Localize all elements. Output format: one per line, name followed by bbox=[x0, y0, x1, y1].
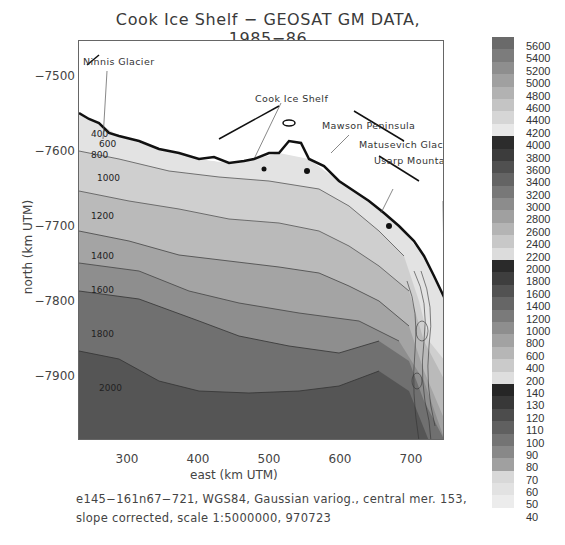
contour-label: 2000 bbox=[99, 383, 122, 393]
contour-label: 1800 bbox=[91, 329, 114, 339]
colorbar-label: 1000 bbox=[526, 325, 550, 337]
colorbar-label: 4200 bbox=[526, 127, 550, 139]
colorbar-label: 4800 bbox=[526, 90, 550, 102]
y-tick-label: −7900 bbox=[34, 369, 75, 383]
colorbar-label: 100 bbox=[526, 437, 550, 449]
y-tick-label: −7800 bbox=[34, 294, 75, 308]
colorbar-label: 120 bbox=[526, 412, 550, 424]
contour-label: 1200 bbox=[91, 211, 114, 221]
x-tick-label: 400 bbox=[178, 452, 218, 466]
colorbar-label: 140 bbox=[526, 387, 550, 399]
contour-label: 1000 bbox=[97, 173, 120, 183]
contour-label: 400 bbox=[91, 129, 108, 139]
colorbar-label: 3600 bbox=[526, 164, 550, 176]
x-tick-label: 600 bbox=[320, 452, 360, 466]
y-tick-label: −7600 bbox=[34, 144, 75, 158]
colorbar-label: 600 bbox=[526, 350, 550, 362]
x-tick-label: 500 bbox=[249, 452, 289, 466]
y-axis-label: north (km UTM) bbox=[21, 187, 35, 307]
colorbar-label: 4000 bbox=[526, 139, 550, 151]
caption-line-1: e145−161n67−721, WGS84, Gaussian variog.… bbox=[76, 490, 467, 509]
annotation-ninnis-glacier: Ninnis Glacier bbox=[83, 56, 154, 67]
y-tick-label: −7500 bbox=[34, 69, 75, 83]
colorbar bbox=[492, 37, 514, 508]
colorbar-label: 5200 bbox=[526, 65, 550, 77]
colorbar-label: 5600 bbox=[526, 40, 550, 52]
colorbar-label: 70 bbox=[526, 474, 550, 486]
map-plot-area[interactable]: 400 600 800 1000 1200 1400 1600 1800 200… bbox=[78, 40, 444, 440]
x-tick-label: 700 bbox=[391, 452, 431, 466]
colorbar-label: 2000 bbox=[526, 263, 550, 275]
colorbar-label: 5400 bbox=[526, 52, 550, 64]
colorbar-label: 2400 bbox=[526, 238, 550, 250]
colorbar-label: 1200 bbox=[526, 313, 550, 325]
colorbar-label: 90 bbox=[526, 449, 550, 461]
annotation-matusevich-glacier: Matusevich Glacier bbox=[359, 139, 444, 150]
colorbar-label: 400 bbox=[526, 362, 550, 374]
colorbar-label: 4600 bbox=[526, 102, 550, 114]
colorbar-label: 4400 bbox=[526, 114, 550, 126]
colorbar-label: 800 bbox=[526, 337, 550, 349]
colorbar-label: 2200 bbox=[526, 251, 550, 263]
colorbar-label: 130 bbox=[526, 399, 550, 411]
contour-label: 1400 bbox=[91, 251, 114, 261]
colorbar-label: 3800 bbox=[526, 152, 550, 164]
colorbar-label: 1800 bbox=[526, 275, 550, 287]
colorbar-label: 60 bbox=[526, 486, 550, 498]
x-axis-label: east (km UTM) bbox=[190, 468, 278, 482]
colorbar-label: 2600 bbox=[526, 226, 550, 238]
colorbar-label: 50 bbox=[526, 498, 550, 510]
caption-line-2: slope corrected, scale 1:5000000, 970723 bbox=[76, 509, 467, 528]
colorbar-label: 40 bbox=[526, 511, 550, 523]
colorbar-label: 3400 bbox=[526, 176, 550, 188]
colorbar-label: 1600 bbox=[526, 288, 550, 300]
colorbar-labels: 5600 5400 5200 5000 4800 4600 4400 4200 … bbox=[526, 40, 550, 523]
annotation-cook-ice-shelf: Cook Ice Shelf bbox=[255, 93, 328, 104]
contour-label: 1600 bbox=[91, 285, 114, 295]
x-tick-label: 300 bbox=[107, 452, 147, 466]
colorbar-label: 3000 bbox=[526, 201, 550, 213]
colorbar-label: 5000 bbox=[526, 77, 550, 89]
colorbar-label: 2800 bbox=[526, 213, 550, 225]
colorbar-label: 3200 bbox=[526, 189, 550, 201]
colorbar-label: 110 bbox=[526, 424, 550, 436]
annotation-mawson-peninsula: Mawson Peninsula bbox=[322, 120, 415, 131]
contour-label: 800 bbox=[91, 150, 108, 160]
colorbar-label: 80 bbox=[526, 461, 550, 473]
annotation-usarp-mountains: Usarp Mountains bbox=[374, 155, 444, 166]
y-tick-label: −7700 bbox=[34, 219, 75, 233]
map-caption: e145−161n67−721, WGS84, Gaussian variog.… bbox=[76, 490, 467, 528]
colorbar-label: 200 bbox=[526, 375, 550, 387]
colorbar-label: 1400 bbox=[526, 300, 550, 312]
contour-label: 600 bbox=[99, 139, 116, 149]
